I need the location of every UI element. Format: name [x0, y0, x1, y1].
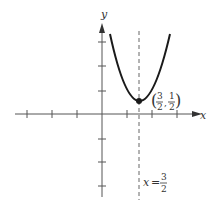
- y-axis-arrow-icon: [99, 23, 105, 33]
- svg-text:x: x: [143, 176, 150, 189]
- svg-text:=: =: [151, 176, 160, 189]
- parabola-graph: x y ( 3 2 , 1 2 ) x = 3 2: [0, 0, 215, 209]
- vertex-label: ( 3 2 , 1 2 ): [151, 91, 181, 112]
- y-axis: [98, 23, 106, 197]
- svg-text:,: ,: [164, 98, 167, 108]
- x-axis-label: x: [200, 109, 207, 122]
- vertex-point: [136, 98, 142, 104]
- y-axis-label: y: [100, 8, 108, 21]
- svg-text:3: 3: [157, 91, 163, 101]
- svg-text:): ): [175, 91, 181, 110]
- svg-text:1: 1: [169, 91, 175, 101]
- svg-text:2: 2: [161, 184, 167, 194]
- svg-text:3: 3: [161, 172, 167, 182]
- axis-of-symmetry-label: x = 3 2: [143, 172, 167, 194]
- svg-text:2: 2: [169, 102, 175, 112]
- svg-text:2: 2: [157, 102, 163, 112]
